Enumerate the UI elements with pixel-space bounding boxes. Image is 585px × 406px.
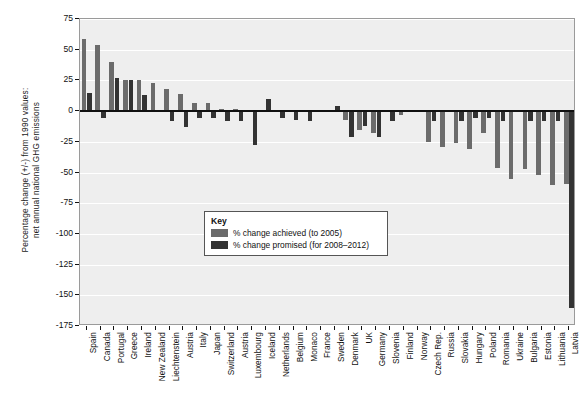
bar-promised bbox=[390, 111, 395, 121]
bar-achieved bbox=[371, 111, 376, 133]
x-axis-tick-label: Norway bbox=[420, 332, 429, 360]
x-axis-tick-mark bbox=[141, 326, 142, 330]
x-axis-tick-mark bbox=[485, 326, 486, 330]
bar-achieved bbox=[151, 83, 156, 111]
bar-achieved bbox=[495, 111, 500, 167]
y-axis-tick-label: 25 bbox=[31, 74, 73, 84]
y-axis-tick-label: -25 bbox=[31, 136, 73, 146]
y-axis-tick-label: -175 bbox=[31, 320, 73, 330]
bar-promised bbox=[170, 111, 175, 121]
x-axis-tick-mark bbox=[361, 326, 362, 330]
legend-label: % change achieved (to 2005) bbox=[233, 228, 342, 238]
bar-achieved bbox=[178, 94, 183, 111]
bar-achieved bbox=[82, 39, 87, 111]
x-axis-tick-label: Spain bbox=[89, 332, 98, 353]
x-axis-tick-label: Iceland bbox=[268, 332, 277, 359]
bar-achieved bbox=[523, 111, 528, 169]
bar-achieved bbox=[536, 111, 541, 175]
x-axis-tick-mark bbox=[265, 326, 266, 330]
legend-swatch bbox=[211, 229, 228, 237]
x-axis-tick-label: Poland bbox=[489, 332, 498, 358]
x-axis-tick-label: Austria bbox=[186, 332, 195, 358]
x-axis-tick-label: Germany bbox=[378, 332, 387, 366]
x-axis-tick-mark bbox=[293, 326, 294, 330]
bar-achieved bbox=[343, 111, 348, 120]
y-axis-tick-label: -150 bbox=[31, 289, 73, 299]
bar-promised bbox=[501, 111, 506, 121]
x-axis-tick-label: Latvia bbox=[571, 332, 580, 354]
x-axis-tick-label: Netherlands bbox=[282, 332, 291, 377]
x-axis-tick-mark bbox=[527, 326, 528, 330]
x-axis-tick-label: Bulgaria bbox=[530, 332, 539, 363]
x-axis-tick-mark bbox=[403, 326, 404, 330]
x-axis-tick-mark bbox=[417, 326, 418, 330]
bar-achieved bbox=[426, 111, 431, 142]
bar-achieved bbox=[509, 111, 514, 179]
bar-achieved bbox=[564, 111, 569, 183]
x-axis-tick-mark bbox=[430, 326, 431, 330]
y-axis-tick-label: -75 bbox=[31, 197, 73, 207]
bar-achieved bbox=[454, 111, 459, 143]
x-axis-tick-mark bbox=[169, 326, 170, 330]
x-axis-tick-mark bbox=[389, 326, 390, 330]
x-axis-tick-label: Ukraine bbox=[516, 332, 525, 361]
x-axis-tick-mark bbox=[458, 326, 459, 330]
legend-entries: % change achieved (to 2005)% change prom… bbox=[211, 228, 381, 250]
x-axis-tick-label: Lithuania bbox=[558, 332, 567, 366]
y-axis-tick-label: -100 bbox=[31, 228, 73, 238]
y-axis-tick-label: 0 bbox=[31, 105, 73, 115]
bar-promised bbox=[349, 111, 354, 137]
bar-achieved bbox=[164, 89, 169, 111]
bar-promised bbox=[266, 99, 271, 111]
gridline bbox=[80, 19, 574, 20]
bar-promised bbox=[363, 111, 368, 126]
bar-promised bbox=[211, 111, 216, 118]
bar-achieved bbox=[357, 111, 362, 129]
x-axis-tick-mark bbox=[513, 326, 514, 330]
x-axis-tick-mark bbox=[224, 326, 225, 330]
gridline bbox=[80, 295, 574, 296]
x-axis-tick-mark bbox=[251, 326, 252, 330]
x-axis-tick-label: Slovenia bbox=[392, 332, 401, 364]
x-axis-tick-label: Romania bbox=[502, 332, 511, 365]
x-axis-tick-mark bbox=[196, 326, 197, 330]
bar-promised bbox=[569, 111, 574, 307]
x-axis-tick-mark bbox=[86, 326, 87, 330]
bar-promised bbox=[239, 111, 244, 121]
x-axis-tick-mark bbox=[541, 326, 542, 330]
legend: Key % change achieved (to 2005)% change … bbox=[204, 211, 388, 256]
x-axis-tick-mark bbox=[306, 326, 307, 330]
legend-entry: % change achieved (to 2005) bbox=[211, 228, 381, 238]
x-axis-tick-mark bbox=[210, 326, 211, 330]
x-axis-tick-label: Russia bbox=[447, 332, 456, 358]
x-axis-tick-label: Czech Rep. bbox=[434, 332, 443, 376]
bar-achieved bbox=[123, 80, 128, 111]
y-axis-tick-label: -50 bbox=[31, 167, 73, 177]
bar-promised bbox=[280, 111, 285, 118]
y-axis-tick-label: -125 bbox=[31, 259, 73, 269]
x-axis-tick-mark bbox=[472, 326, 473, 330]
x-axis-tick-label: Greece bbox=[130, 332, 139, 359]
bar-promised bbox=[487, 111, 492, 118]
gridline bbox=[80, 50, 574, 51]
chart-root: Percentage change (+/-) from 1990 values… bbox=[0, 0, 585, 406]
y-axis-tick-mark bbox=[75, 325, 79, 326]
gridline bbox=[80, 142, 574, 143]
bar-promised bbox=[101, 111, 106, 118]
x-axis-tick-label: New Zealand bbox=[158, 332, 167, 381]
bar-achieved bbox=[440, 111, 445, 147]
bar-promised bbox=[115, 78, 120, 111]
x-axis-tick-label: Estonia bbox=[544, 332, 553, 360]
legend-entry: % change promised (for 2008–2012) bbox=[211, 240, 381, 250]
x-axis-tick-mark bbox=[568, 326, 569, 330]
zero-baseline bbox=[80, 110, 574, 112]
bar-promised bbox=[129, 80, 134, 111]
bar-promised bbox=[528, 111, 533, 121]
x-axis-tick-mark bbox=[127, 326, 128, 330]
x-axis-tick-label: Luxembourg bbox=[254, 332, 263, 378]
x-axis-tick-label: Ireland bbox=[144, 332, 153, 358]
x-axis-tick-mark bbox=[100, 326, 101, 330]
x-axis-tick-label: Denmark bbox=[351, 332, 360, 366]
plot-area bbox=[79, 18, 575, 325]
x-axis-tick-label: Italy bbox=[199, 332, 208, 347]
